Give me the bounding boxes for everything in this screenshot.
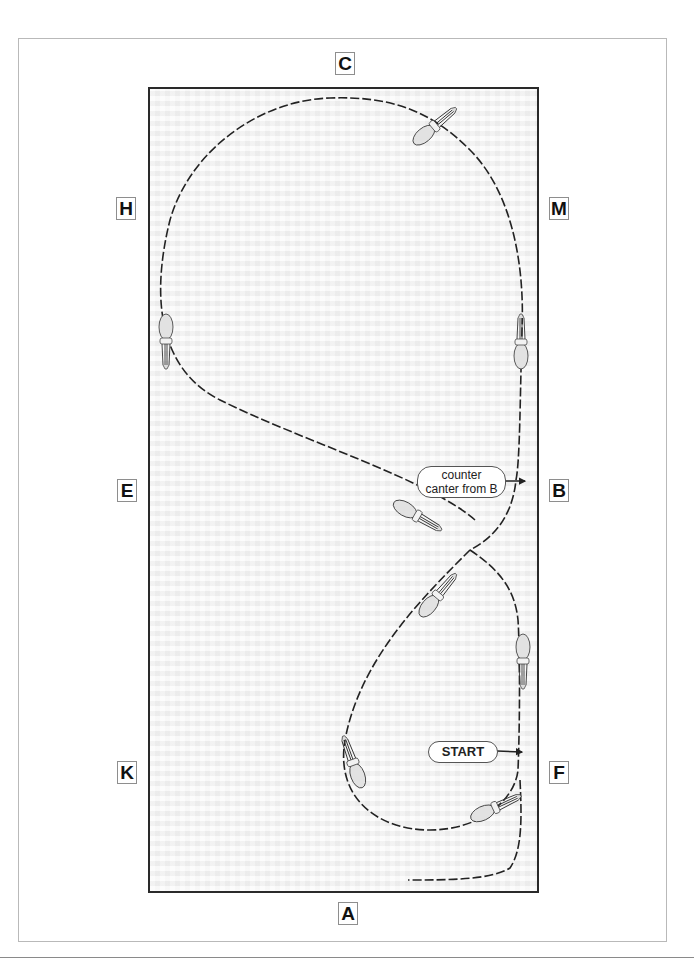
horse-top xyxy=(409,103,460,149)
horse-bottom-left xyxy=(337,734,369,790)
counter-canter-text: counter canter from B xyxy=(425,468,497,496)
start-arrow xyxy=(497,751,522,752)
track-lower-loop xyxy=(344,550,520,830)
horse-bottom xyxy=(468,789,524,825)
horse-center-upper xyxy=(390,496,445,536)
horse-center-lower xyxy=(415,569,461,620)
track-exit xyxy=(408,780,521,880)
start-callout: START xyxy=(428,741,498,763)
horse-right-upper xyxy=(514,314,528,369)
counter-canter-callout: counter canter from B xyxy=(417,466,506,498)
horse-left xyxy=(159,314,173,369)
track-svg xyxy=(0,0,694,966)
horse-right-lower xyxy=(516,634,530,689)
